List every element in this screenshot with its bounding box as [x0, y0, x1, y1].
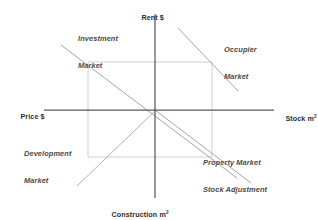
stock-axis-label: Stock m2 [277, 106, 317, 133]
investment-market-label-line1: Investment [78, 35, 118, 44]
price-axis-label: Price $ [12, 105, 45, 130]
investment-market-label-line2: Market [78, 62, 118, 71]
property-market-label-line1: Property Market [203, 159, 267, 168]
construction-axis-unit-superscript: 2 [166, 210, 169, 215]
occupier-market-label: Occupier Market [224, 29, 257, 99]
occupier-market-label-line1: Occupier [224, 46, 257, 55]
four-quadrant-diagram: Rent $ Stock m2 Construction m2 Price $ … [0, 0, 318, 220]
stock-axis-unit-superscript: 2 [314, 114, 317, 119]
rent-axis-label: Rent $ [133, 6, 164, 31]
property-market-stock-adjustment-label: Property Market Stock Adjustment [203, 142, 267, 212]
development-market-line [77, 110, 156, 186]
occupier-market-label-line2: Market [224, 73, 257, 82]
investment-market-label: Investment Market [78, 18, 118, 88]
development-market-label-line1: Development [24, 150, 72, 159]
construction-axis-label: Construction m2 [103, 202, 169, 220]
development-market-label-line2: Market [24, 177, 72, 186]
development-market-label: Development Market [24, 133, 72, 203]
property-market-label-line2: Stock Adjustment [203, 186, 267, 195]
